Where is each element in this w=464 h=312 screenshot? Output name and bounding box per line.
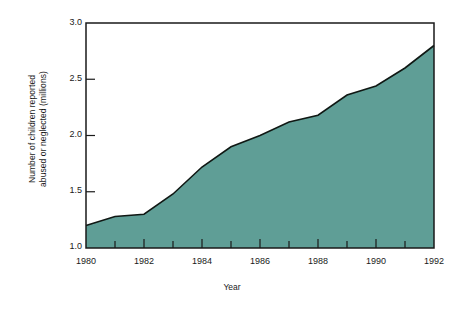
area-series-group xyxy=(86,46,434,249)
area-series-fill xyxy=(86,46,434,249)
chart-figure: Number of children reported abused or ne… xyxy=(0,0,464,312)
plot-area xyxy=(0,0,464,312)
